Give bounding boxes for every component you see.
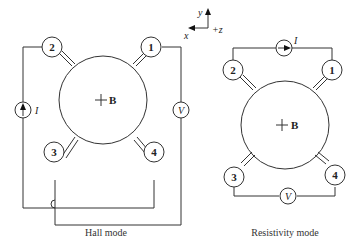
svg-text:1: 1	[329, 64, 335, 76]
axes-indicator: y x +z	[183, 7, 223, 41]
z-axis-label: +z	[212, 24, 223, 35]
svg-text:2: 2	[230, 64, 236, 76]
resistivity-current-label: I	[293, 35, 298, 46]
svg-text:3: 3	[51, 146, 57, 158]
x-arrow-icon	[188, 25, 195, 31]
hall-current-label: I	[34, 105, 39, 116]
diagram: y x +z 2 1 3 4 B I V	[0, 0, 360, 238]
svg-text:4: 4	[332, 169, 338, 181]
x-axis-label: x	[183, 30, 189, 41]
hall-mode-diagram: 2 1 3 4 B I V Hall mode	[15, 37, 189, 238]
resistivity-mode-diagram: 2 1 3 4 B I V Resistivity mode	[223, 35, 345, 238]
resistivity-field-label: B	[291, 119, 299, 131]
hall-caption: Hall mode	[85, 227, 127, 238]
svg-text:1: 1	[148, 41, 154, 53]
resistivity-caption: Resistivity mode	[251, 227, 319, 238]
y-arrow-icon	[205, 8, 211, 15]
hall-wire-current-left	[23, 47, 55, 208]
hall-field-label: B	[109, 94, 117, 106]
svg-text:4: 4	[151, 146, 157, 158]
svg-text:3: 3	[231, 171, 237, 183]
y-axis-label: y	[197, 7, 203, 18]
svg-text:2: 2	[49, 41, 55, 53]
hall-wire-contact4	[55, 180, 154, 208]
